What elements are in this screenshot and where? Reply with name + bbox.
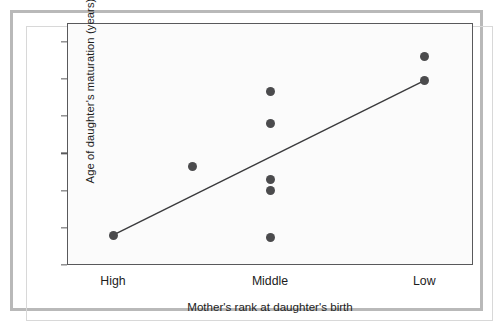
x-axis-tick-label: Middle	[210, 274, 330, 288]
data-point	[266, 87, 275, 96]
data-point	[266, 233, 275, 242]
data-point	[109, 231, 118, 240]
data-point	[266, 119, 275, 128]
x-axis-title: Mother's rank at daughter's birth	[67, 300, 473, 313]
regression-line	[67, 23, 473, 265]
data-point	[420, 76, 429, 85]
data-point	[266, 175, 275, 184]
figure-container: Age of daughter's maturation (years) 891…	[0, 0, 497, 327]
x-axis-tick-label: High	[53, 274, 173, 288]
plot-area: Age of daughter's maturation (years) 891…	[67, 23, 473, 265]
x-axis-tick-label: Low	[364, 274, 484, 288]
data-point	[266, 186, 275, 195]
data-point	[420, 52, 429, 61]
